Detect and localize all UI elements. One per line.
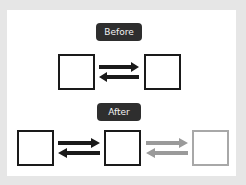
after-box-1 xyxy=(17,130,54,166)
before-badge: Before xyxy=(96,23,142,41)
before-box-right xyxy=(144,54,181,90)
before-box-left xyxy=(58,54,95,90)
bidirectional-arrow-faded-icon xyxy=(146,137,189,159)
bidirectional-arrow-icon xyxy=(58,137,101,159)
bidirectional-arrow-icon xyxy=(99,61,141,83)
after-box-3-faded xyxy=(192,130,229,166)
after-box-2 xyxy=(104,130,141,166)
after-badge: After xyxy=(97,103,141,121)
